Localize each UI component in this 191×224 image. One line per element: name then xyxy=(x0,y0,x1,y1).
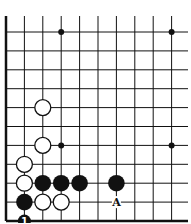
white-stone xyxy=(35,137,51,153)
white-stone xyxy=(53,194,69,210)
white-stone xyxy=(16,156,32,172)
black-stone xyxy=(16,194,33,211)
white-stone xyxy=(35,194,51,210)
black-stone xyxy=(108,175,125,192)
star-point xyxy=(58,142,64,148)
point-label: A xyxy=(111,196,121,209)
black-stone xyxy=(53,175,70,192)
white-stone xyxy=(16,175,32,191)
white-stone xyxy=(35,100,51,116)
move-number: 1 xyxy=(21,216,28,224)
star-point xyxy=(169,29,175,35)
star-point xyxy=(58,29,64,35)
go-board-diagram: 1A xyxy=(0,0,191,223)
star-point xyxy=(169,142,175,148)
black-stone xyxy=(71,175,88,192)
black-stone xyxy=(35,175,52,192)
